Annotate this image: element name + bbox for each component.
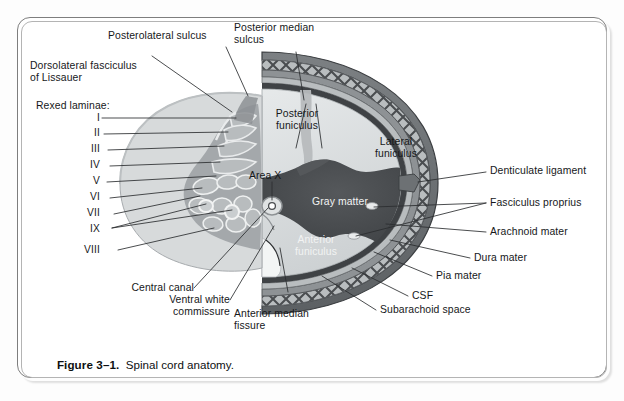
label-subarachnoid-space: Subarachoid space: [380, 304, 471, 316]
rexed-lamina-viii: VIII: [60, 245, 100, 256]
label-dura-mater: Dura mater: [474, 252, 527, 264]
rexed-lamina-v: V: [60, 176, 100, 187]
label-fasciculus-proprius: Fasciculus proprius: [490, 197, 581, 209]
rexed-lamina-iii: III: [60, 144, 100, 155]
label-anterior-median-fissure: Anterior median fissure: [234, 308, 309, 331]
rexed-lamina-ii: II: [60, 128, 100, 139]
label-area-x: Area X: [249, 170, 281, 182]
rexed-lamina-ix: IX: [60, 224, 100, 235]
label-rexed-laminae-heading: Rexed laminae:: [36, 100, 110, 112]
label-lateral-funiculus: Lateral funiculus: [365, 136, 427, 159]
figure-number: Figure 3–1.: [57, 358, 120, 371]
rexed-lamina-vii: VII: [60, 208, 100, 219]
label-pia-mater: Pia mater: [436, 270, 481, 282]
label-gray-matter: Gray matter: [312, 196, 368, 208]
figure-page: Posterolateral sulcus Posterior median s…: [0, 0, 624, 401]
label-central-canal: Central canal: [110, 282, 194, 294]
figure-title: Spinal cord anatomy.: [126, 358, 234, 371]
label-posterolateral-sulcus: Posterolateral sulcus: [108, 30, 207, 42]
label-ventral-white-commissure: Ventral white commissure: [140, 294, 230, 317]
label-anterior-funiculus: Anterior funiculus: [285, 234, 347, 257]
label-dorsolateral-fasciculus-of-lissauer: Dorsolateral fasciculus of Lissauer: [30, 60, 137, 83]
label-csf: CSF: [412, 290, 433, 302]
rexed-lamina-vi: VI: [60, 192, 100, 203]
rexed-lamina-iv: IV: [60, 160, 100, 171]
label-posterior-funiculus: Posterior funiculus: [268, 108, 326, 131]
label-denticulate-ligament: Denticulate ligament: [490, 165, 586, 177]
rexed-lamina-i: I: [60, 113, 100, 124]
label-arachnoid-mater: Arachnoid mater: [490, 226, 568, 238]
figure-caption: Figure 3–1. Spinal cord anatomy.: [44, 345, 234, 384]
label-posterior-median-sulcus: Posterior median sulcus: [234, 22, 314, 45]
